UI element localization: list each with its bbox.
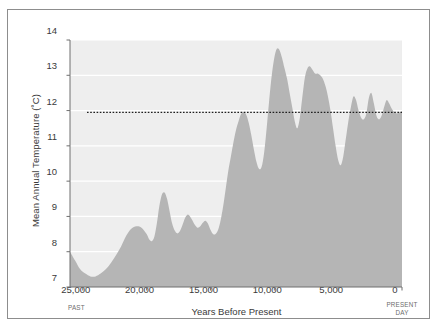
chart-frame: Mean Annual Temperature (˚C) Years Befor… (7, 9, 430, 319)
chart-plot-area (8, 10, 438, 330)
figure-container: Mean Annual Temperature (˚C) Years Befor… (0, 0, 438, 330)
